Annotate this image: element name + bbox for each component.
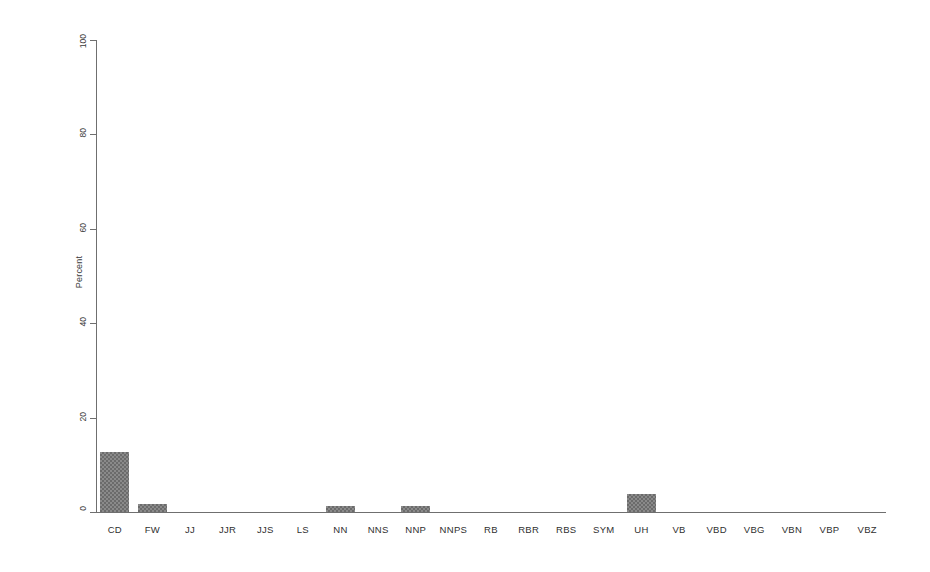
x-axis-tick-label: CD	[108, 524, 122, 535]
bar-nn	[326, 506, 355, 512]
y-axis-tick-label: 40	[79, 317, 88, 326]
y-axis-tick-label: 60	[79, 223, 88, 232]
y-axis-tick-label: 0	[79, 506, 88, 511]
x-axis-tick-label: RB	[484, 524, 498, 535]
x-axis-tick-label: VBN	[782, 524, 802, 535]
bar-nnp	[401, 506, 430, 512]
x-axis-tick-label: LS	[297, 524, 309, 535]
bar-cd	[100, 452, 129, 512]
x-axis-tick-label: NN	[333, 524, 347, 535]
x-axis-tick-label: RBR	[518, 524, 539, 535]
bar-chart: Percent 020406080100 CDFWJJJJRJJSLSNNNNS…	[0, 0, 930, 572]
x-axis-tick-label: UH	[634, 524, 648, 535]
plot-area: 020406080100	[96, 40, 886, 513]
x-axis-tick-label: JJS	[257, 524, 274, 535]
y-axis-tick-label: 20	[79, 412, 88, 421]
x-axis-tick-label: RBS	[556, 524, 576, 535]
bars-layer	[96, 40, 886, 513]
x-axis-tick-label: JJR	[219, 524, 236, 535]
x-axis-tick-label: VB	[672, 524, 685, 535]
x-axis-tick-label: VBP	[820, 524, 840, 535]
x-axis-tick-label: NNS	[368, 524, 389, 535]
x-axis-tick-labels: CDFWJJJJRJJSLSNNNNSNNPNNPSRBRBRRBSSYMUHV…	[96, 524, 886, 544]
bar-fw	[138, 504, 167, 512]
y-axis-title: Percent	[74, 232, 84, 312]
bar-uh	[627, 494, 656, 512]
x-axis-tick-label: VBD	[706, 524, 726, 535]
y-axis-tick-label: 80	[79, 128, 88, 137]
x-axis-tick-label: VBZ	[857, 524, 876, 535]
y-axis-tick-label: 100	[79, 34, 88, 48]
x-axis-tick-label: JJ	[185, 524, 195, 535]
x-axis-tick-label: VBG	[744, 524, 765, 535]
x-axis-tick-label: NNPS	[440, 524, 468, 535]
x-axis-tick-label: NNP	[405, 524, 426, 535]
x-axis-tick-label: SYM	[593, 524, 615, 535]
x-axis-tick-label: FW	[145, 524, 160, 535]
